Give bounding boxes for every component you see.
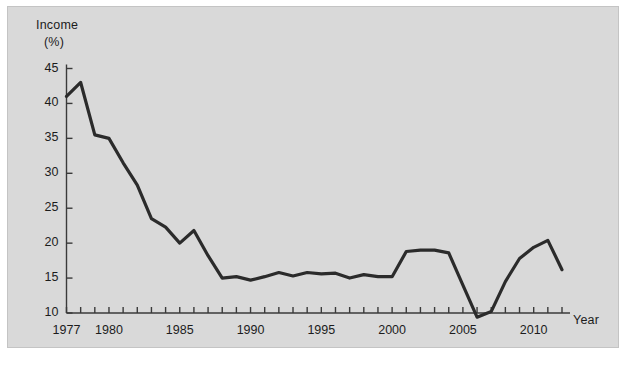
x-tick-label: 2005: [441, 323, 485, 337]
y-axis-ticks: [67, 69, 73, 314]
y-tick-label: 25: [31, 200, 59, 214]
x-tick-label: 1977: [45, 323, 89, 337]
income-series-line: [67, 82, 563, 317]
x-tick-label: 2000: [370, 323, 414, 337]
y-axis: [67, 65, 73, 314]
y-tick-label: 35: [31, 130, 59, 144]
x-tick-label: 2010: [512, 323, 556, 337]
y-tick-label: 10: [31, 305, 59, 319]
chart-figure: Income (%) Year 1015202530354045 1977198…: [0, 0, 627, 370]
x-tick-label: 1980: [87, 323, 131, 337]
y-tick-label: 30: [31, 165, 59, 179]
y-tick-label: 45: [31, 61, 59, 75]
line-chart-plot: [0, 0, 627, 370]
y-tick-label: 20: [31, 235, 59, 249]
y-tick-label: 15: [31, 270, 59, 284]
x-tick-label: 1990: [229, 323, 273, 337]
x-tick-label: 1985: [158, 323, 202, 337]
x-tick-label: 1995: [299, 323, 343, 337]
y-tick-label: 40: [31, 95, 59, 109]
